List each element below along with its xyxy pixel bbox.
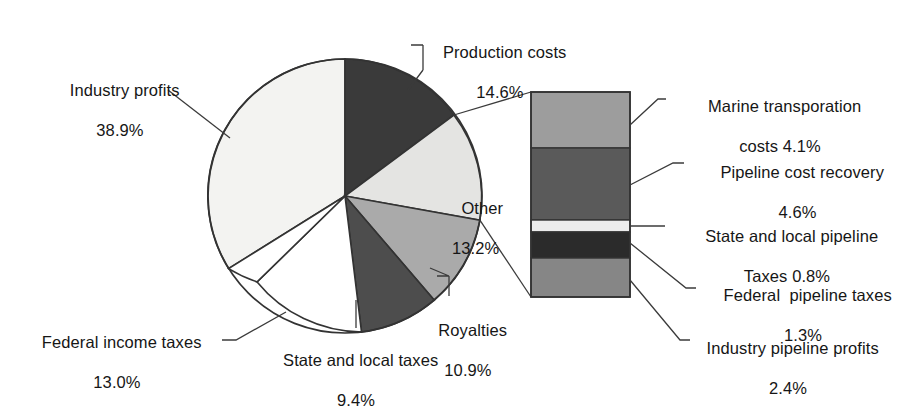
label-production-costs-line1: Production costs [443, 43, 567, 61]
label-federal-income-taxes-line2: 13.0% [12, 372, 222, 392]
label-marine-transportation-costs-line1: Marine transporation [708, 97, 861, 115]
label-industry-pipeline-profits-line1: Industry pipeline profits [707, 339, 879, 357]
label-other: Other 13.2% [452, 178, 548, 278]
label-state-and-local-taxes-line2: 9.4% [256, 390, 456, 410]
label-federal-income-taxes-line1: Federal income taxes [42, 333, 202, 351]
label-production-costs-line2: 14.6% [405, 82, 595, 102]
label-industry-profits-line2: 38.9% [20, 120, 220, 140]
label-pipeline-cost-recovery-line1: Pipeline cost recovery [720, 163, 884, 181]
label-state-and-local-taxes-line1: State and local taxes [283, 351, 438, 369]
label-industry-pipeline-profits: Industry pipeline profits 2.4% [668, 318, 908, 411]
label-state-and-local-pipeline-taxes-line1: State and local pipeline [705, 227, 878, 245]
label-production-costs: Production costs 14.6% [405, 22, 595, 122]
label-other-line2: 13.2% [452, 238, 548, 258]
label-other-line1: Other [461, 199, 503, 217]
label-federal-income-taxes: Federal income taxes 13.0% [12, 312, 222, 411]
label-state-and-local-taxes: State and local taxes 9.4% [256, 330, 456, 411]
label-industry-profits-line1: Industry profits [70, 81, 180, 99]
label-industry-pipeline-profits-line2: 2.4% [668, 378, 908, 398]
label-federal-pipeline-taxes-line1: Federal pipeline taxes [724, 286, 892, 304]
label-industry-profits: Industry profits 38.9% [20, 60, 220, 160]
